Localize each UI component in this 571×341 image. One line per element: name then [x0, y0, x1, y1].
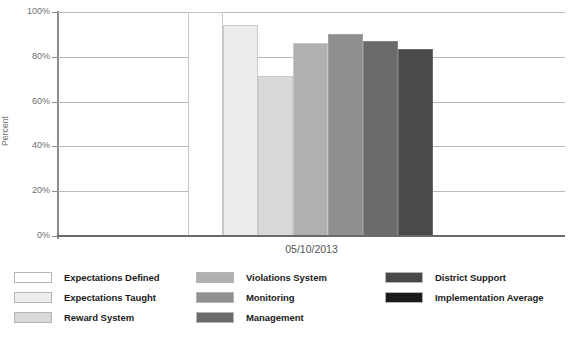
x-axis-line — [57, 235, 565, 237]
legend-swatch — [196, 272, 234, 283]
legend-item: Violations System — [196, 268, 386, 286]
chart-legend: Expectations DefinedExpectations TaughtR… — [0, 268, 571, 330]
legend-swatch — [14, 292, 52, 303]
legend-swatch — [196, 312, 234, 323]
legend-column-1: Expectations DefinedExpectations TaughtR… — [14, 268, 199, 330]
legend-item: Management — [196, 308, 386, 326]
bar — [328, 34, 363, 236]
legend-label: Monitoring — [246, 292, 295, 303]
y-axis-tick-label: 40% — [6, 140, 50, 150]
bar — [188, 12, 223, 236]
legend-label: District Support — [435, 272, 506, 283]
legend-item: District Support — [385, 268, 571, 286]
bar — [398, 49, 433, 236]
legend-label: Management — [246, 312, 304, 323]
x-axis-label: 05/10/2013 — [58, 243, 565, 255]
legend-label: Reward System — [64, 312, 134, 323]
legend-swatch — [385, 272, 423, 283]
legend-column-2: Violations SystemMonitoringManagement — [196, 268, 386, 330]
gridline — [58, 12, 565, 13]
bar — [223, 25, 258, 236]
legend-label: Violations System — [246, 272, 327, 283]
plot-area — [58, 12, 565, 236]
y-axis-tick-label: 80% — [6, 51, 50, 61]
legend-item: Expectations Taught — [14, 288, 199, 306]
bar — [363, 41, 398, 236]
legend-swatch — [14, 272, 52, 283]
bar-chart: Percent 100%80%60%40%20%0% 05/10/2013 Ex… — [0, 0, 571, 341]
legend-item: Expectations Defined — [14, 268, 199, 286]
y-axis-tick-label: 60% — [6, 96, 50, 106]
y-axis-tick-label: 0% — [6, 230, 50, 240]
legend-item: Reward System — [14, 308, 199, 326]
legend-label: Implementation Average — [435, 292, 544, 303]
legend-item: Monitoring — [196, 288, 386, 306]
bar — [293, 43, 328, 236]
legend-swatch — [385, 292, 423, 303]
legend-item: Implementation Average — [385, 288, 571, 306]
bar — [258, 76, 293, 236]
legend-label: Expectations Defined — [64, 272, 160, 283]
legend-column-3: District SupportImplementation Average — [385, 268, 571, 330]
y-axis-tick-label: 100% — [6, 6, 50, 16]
y-axis-tick-labels: 100%80%60%40%20%0% — [0, 0, 50, 260]
legend-swatch — [14, 312, 52, 323]
legend-label: Expectations Taught — [64, 292, 156, 303]
legend-swatch — [196, 292, 234, 303]
y-axis-tick-label: 20% — [6, 185, 50, 195]
